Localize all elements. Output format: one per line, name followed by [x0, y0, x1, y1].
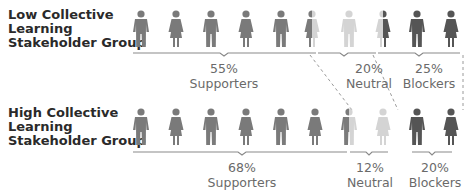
percent: 20%	[402, 160, 468, 175]
blocker-woman-icon	[441, 10, 461, 48]
blocker-man-icon	[407, 10, 427, 48]
supporter-man-icon	[201, 108, 221, 146]
low-neutral-label: 20% Neutral	[339, 61, 399, 91]
low-supporters-label: 55% Supporters	[184, 61, 264, 91]
supporter-man-icon	[271, 10, 291, 48]
neutral-man-icon	[339, 10, 359, 48]
low-blockers-label: 25% Blockers	[396, 61, 462, 91]
high-neutral-label: 12% Neutral	[340, 160, 400, 190]
segment-name: Neutral	[340, 175, 400, 190]
percent: 68%	[202, 160, 282, 175]
split-supporter-neutral-icon	[339, 108, 359, 146]
percent: 55%	[184, 61, 264, 76]
supporter-man-icon	[201, 10, 221, 48]
supporter-man-icon	[271, 108, 291, 146]
supporter-man-icon	[131, 10, 151, 48]
segment-name: Supporters	[202, 175, 282, 190]
high-blockers-label: 20% Blockers	[402, 160, 468, 190]
neutral-woman-icon	[373, 108, 393, 146]
percent: 12%	[340, 160, 400, 175]
blocker-woman-icon	[441, 108, 461, 146]
segment-name: Supporters	[184, 76, 264, 91]
blocker-man-icon	[407, 108, 427, 146]
percent: 20%	[339, 61, 399, 76]
supporter-woman-icon	[236, 108, 256, 146]
segment-name: Neutral	[339, 76, 399, 91]
high-supporters-label: 68% Supporters	[202, 160, 282, 190]
split-supporter-neutral-icon	[302, 10, 322, 48]
segment-name: Blockers	[396, 76, 462, 91]
segment-name: Blockers	[402, 175, 468, 190]
supporter-woman-icon	[236, 10, 256, 48]
supporter-man-icon	[131, 108, 151, 146]
supporter-woman-icon	[166, 108, 186, 146]
supporter-woman-icon	[166, 10, 186, 48]
percent: 25%	[396, 61, 462, 76]
split-neutral-blocker-icon	[373, 10, 393, 48]
supporter-woman-icon	[305, 108, 325, 146]
